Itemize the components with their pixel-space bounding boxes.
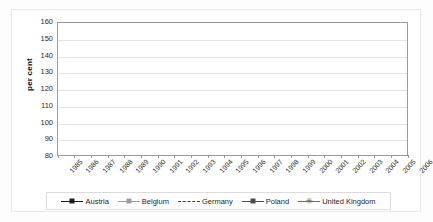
x-axis-tick-mark xyxy=(224,155,225,158)
y-axis-tick-label: 80 xyxy=(45,152,53,160)
x-axis-tick-mark xyxy=(74,155,75,158)
y-axis-tick-label: 100 xyxy=(40,119,53,127)
x-axis-tick-label: 1996 xyxy=(251,158,267,175)
x-axis-tick-mark xyxy=(191,155,192,158)
y-axis-tick-label: 110 xyxy=(41,102,53,110)
gridline xyxy=(58,90,407,91)
x-axis-tick-label: 1995 xyxy=(234,158,250,175)
plot-area xyxy=(57,22,408,156)
x-axis-tick-label: 2002 xyxy=(351,158,367,175)
x-axis-tick-label: 2001 xyxy=(334,158,350,175)
x-axis-tick-label: 1999 xyxy=(301,158,317,175)
x-axis-tick-mark xyxy=(58,155,59,158)
x-axis-tick-label: 1993 xyxy=(201,158,217,175)
legend-swatch-icon xyxy=(118,197,140,206)
x-axis-tick-label: 1986 xyxy=(84,158,100,175)
gridline xyxy=(58,57,407,58)
x-axis-tick-label: 1990 xyxy=(151,158,167,175)
x-axis-tick-label: 1985 xyxy=(68,158,84,175)
x-axis-tick-mark xyxy=(258,155,259,158)
legend-item-label: Germany xyxy=(202,197,233,206)
x-axis-tick-mark xyxy=(291,155,292,158)
x-axis-tick-mark xyxy=(124,155,125,158)
x-axis-tick-label: 2000 xyxy=(318,158,334,175)
x-axis-tick-mark xyxy=(391,155,392,158)
legend-item-label: Poland xyxy=(266,197,289,206)
gridline xyxy=(58,40,407,41)
gridline xyxy=(58,107,407,108)
x-axis-tick-mark xyxy=(158,155,159,158)
x-axis-tick-mark xyxy=(174,155,175,158)
legend-swatch-icon xyxy=(178,197,200,206)
x-axis-tick-mark xyxy=(308,155,309,158)
x-axis-tick-mark xyxy=(374,155,375,158)
x-axis-tick-mark xyxy=(341,155,342,158)
x-axis-tick-label: 2003 xyxy=(368,158,384,175)
y-axis-tick-labels: 1601501401301201101009080 xyxy=(26,22,53,156)
x-axis-tick-mark xyxy=(91,155,92,158)
x-axis-tick-label: 1998 xyxy=(284,158,300,175)
legend-swatch-icon xyxy=(61,197,83,206)
x-axis-tick-mark xyxy=(108,155,109,158)
x-axis-tick-labels: 1985198619871988198919901991199219931994… xyxy=(57,158,408,192)
x-axis-tick-label: 1988 xyxy=(118,158,134,175)
x-axis-tick-mark xyxy=(408,155,409,158)
x-axis-tick-mark xyxy=(208,155,209,158)
y-axis-tick-label: 150 xyxy=(40,35,53,43)
legend-item-label: United Kingdom xyxy=(322,197,375,206)
x-axis-tick-mark xyxy=(324,155,325,158)
plot-area-wrapper xyxy=(57,22,408,156)
legend-item-united-kingdom[interactable]: ✳United Kingdom xyxy=(298,197,375,206)
x-axis-tick-label: 1989 xyxy=(134,158,150,175)
x-axis-tick-mark xyxy=(241,155,242,158)
y-axis-tick-label: 90 xyxy=(45,135,53,143)
gridline xyxy=(58,73,407,74)
gridline xyxy=(58,140,407,141)
x-axis-tick-label: 1987 xyxy=(101,158,117,175)
legend-item-label: Belgium xyxy=(142,197,169,206)
legend-item-germany[interactable]: Germany xyxy=(178,197,233,206)
x-axis-tick-mark xyxy=(274,155,275,158)
x-axis-tick-label: 1992 xyxy=(184,158,200,175)
y-axis-tick-label: 160 xyxy=(40,18,53,26)
x-axis-tick-mark xyxy=(358,155,359,158)
legend-item-label: Austria xyxy=(85,197,108,206)
x-axis-tick-label: 1994 xyxy=(218,158,234,175)
legend-item-belgium[interactable]: Belgium xyxy=(118,197,169,206)
chart-legend: AustriaBelgiumGermanyPoland✳United Kingd… xyxy=(46,192,391,210)
y-axis-tick-label: 120 xyxy=(40,85,53,93)
legend-swatch-icon xyxy=(242,197,264,206)
y-axis-tick-label: 140 xyxy=(40,52,53,60)
x-axis-tick-label: 1997 xyxy=(268,158,284,175)
gridline xyxy=(58,124,407,125)
y-axis-tick-label: 130 xyxy=(40,68,53,76)
x-axis-tick-mark xyxy=(141,155,142,158)
chart-container: per cent 1601501401301201101009080 19851… xyxy=(0,0,433,222)
x-axis-tick-label: 2004 xyxy=(384,158,400,175)
legend-item-poland[interactable]: Poland xyxy=(242,197,289,206)
legend-item-austria[interactable]: Austria xyxy=(61,197,108,206)
legend-swatch-icon: ✳ xyxy=(298,197,320,206)
x-axis-tick-label: 1991 xyxy=(168,158,184,175)
